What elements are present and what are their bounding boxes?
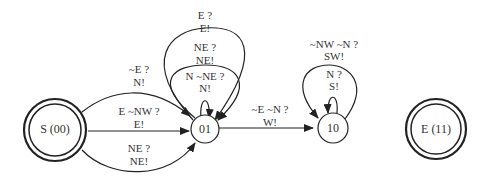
node-start-s00: S (00) <box>24 99 86 161</box>
svg-text:E (11): E (11) <box>421 122 451 136</box>
svg-text:N ?: N ? <box>326 68 342 80</box>
svg-text:N ~NE ?: N ~NE ? <box>186 70 225 82</box>
edge-01-to-10: ~E ~N ? W! <box>219 103 313 128</box>
svg-text:N!: N! <box>199 82 211 94</box>
svg-text:S!: S! <box>329 80 339 92</box>
node-end-e11: E (11) <box>406 99 466 159</box>
loop-01-n-not-ne: N ~NE ? N! <box>186 70 225 118</box>
svg-text:NE!: NE! <box>196 54 214 66</box>
svg-text:E ~NW ?: E ~NW ? <box>118 105 159 117</box>
svg-text:10: 10 <box>327 121 339 135</box>
svg-text:W!: W! <box>263 116 277 128</box>
svg-text:NE!: NE! <box>130 155 148 167</box>
svg-text:E!: E! <box>134 118 144 130</box>
svg-text:E!: E! <box>200 22 210 34</box>
edge-s-to-01-e-not-nw: E ~NW ? E! <box>88 105 189 131</box>
svg-text:NE ?: NE ? <box>128 142 150 154</box>
node-10: 10 <box>318 113 348 143</box>
node-01: 01 <box>191 115 219 143</box>
svg-text:~E ?: ~E ? <box>129 63 149 75</box>
svg-text:S (00): S (00) <box>40 122 70 136</box>
state-diagram: ~E ? N! E ~NW ? E! NE ? NE! E ? E! NE ? … <box>0 0 485 184</box>
svg-text:SW!: SW! <box>324 50 344 62</box>
svg-text:~E ~N ?: ~E ~N ? <box>252 103 289 115</box>
svg-text:01: 01 <box>199 122 211 136</box>
loop-10-n: N ? S! <box>326 68 342 113</box>
svg-text:E ?: E ? <box>198 9 212 21</box>
svg-text:N!: N! <box>133 76 145 88</box>
svg-text:NE ?: NE ? <box>194 41 216 53</box>
edge-s-to-01-ne: NE ? NE! <box>82 142 195 172</box>
svg-text:~NW ~N ?: ~NW ~N ? <box>310 38 358 50</box>
